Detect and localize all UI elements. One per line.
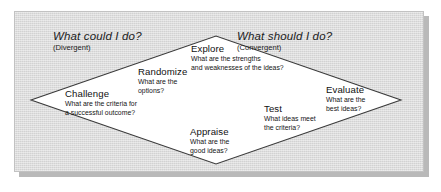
node-challenge-desc-line2: a successful outcome? xyxy=(65,109,137,117)
node-evaluate-desc-line1: What are the xyxy=(326,96,365,104)
node-randomize: Randomize What are the options? xyxy=(138,66,187,95)
node-test-title: Test xyxy=(264,103,316,115)
node-challenge-title: Challenge xyxy=(65,88,137,100)
diagram-panel: What could I do? (Divergent) What should… xyxy=(14,11,424,172)
node-randomize-desc-line1: What are the xyxy=(138,78,187,86)
node-appraise: Appraise What are the good ideas? xyxy=(190,126,229,155)
node-evaluate-title: Evaluate xyxy=(326,84,365,96)
node-explore-desc-line2: and weaknesses of the ideas? xyxy=(191,64,284,72)
node-challenge: Challenge What are the criteria for a su… xyxy=(65,88,137,117)
node-explore: Explore What are the strengths and weakn… xyxy=(191,43,284,72)
divergent-subtitle: (Divergent) xyxy=(53,44,142,53)
node-test-desc-line2: the criteria? xyxy=(264,124,316,132)
node-appraise-title: Appraise xyxy=(190,126,229,138)
node-evaluate: Evaluate What are the best ideas? xyxy=(326,84,365,113)
node-evaluate-desc-line2: best ideas? xyxy=(326,105,365,113)
node-challenge-desc-line1: What are the criteria for xyxy=(65,100,137,108)
corner-question-divergent: What could I do? (Divergent) xyxy=(53,30,142,53)
node-test-desc-line1: What ideas meet xyxy=(264,115,316,123)
node-test: Test What ideas meet the criteria? xyxy=(264,103,316,132)
node-randomize-title: Randomize xyxy=(138,66,187,78)
node-appraise-desc-line1: What are the xyxy=(190,138,229,146)
divergent-title: What could I do? xyxy=(53,30,142,43)
node-appraise-desc-line2: good ideas? xyxy=(190,147,229,155)
diagram-canvas: What could I do? (Divergent) What should… xyxy=(0,0,441,192)
node-randomize-desc-line2: options? xyxy=(138,87,187,95)
convergent-title: What should I do? xyxy=(237,30,332,43)
node-explore-title: Explore xyxy=(191,43,284,55)
node-explore-desc-line1: What are the strengths xyxy=(191,55,284,63)
